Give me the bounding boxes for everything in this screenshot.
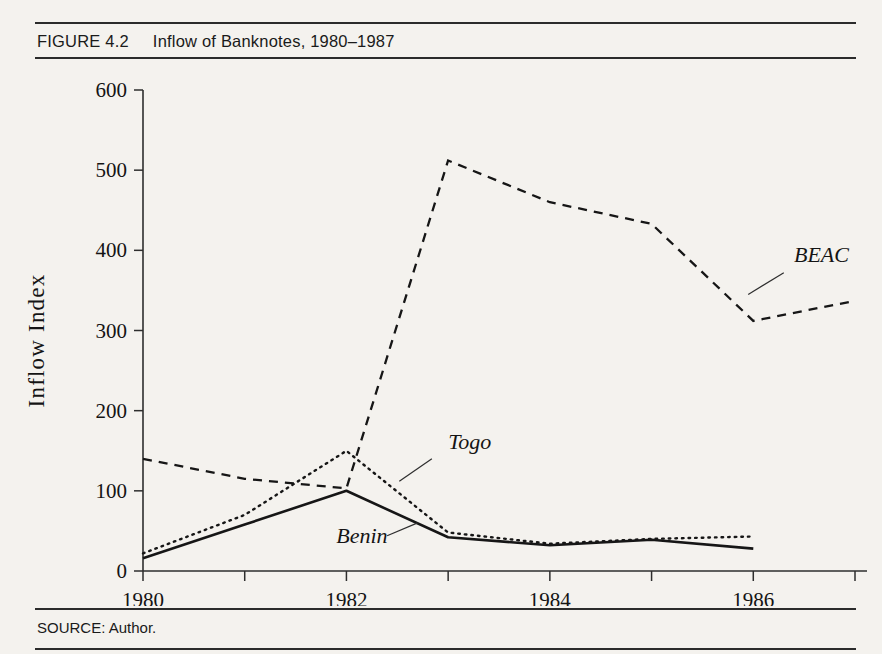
y-axis-group: 0100200300400500600 bbox=[96, 78, 144, 583]
y-tick-label: 100 bbox=[96, 479, 128, 503]
y-tick-label: 300 bbox=[96, 319, 128, 343]
x-tick-label: 1982 bbox=[325, 588, 367, 606]
y-tick-label: 400 bbox=[96, 238, 128, 262]
series-label-togo: Togo bbox=[448, 429, 491, 454]
series-line-beac bbox=[143, 161, 855, 489]
figure-page: FIGURE 4.2 Inflow of Banknotes, 1980–198… bbox=[0, 0, 882, 654]
leader-line-beac bbox=[748, 273, 784, 295]
y-tick-label: 0 bbox=[117, 559, 128, 583]
x-tick-label: 1980 bbox=[122, 588, 164, 606]
rule-above-source bbox=[35, 608, 856, 610]
y-tick-label: 500 bbox=[96, 158, 128, 182]
y-tick-label: 600 bbox=[96, 78, 128, 102]
series-label-benin: Benin bbox=[336, 523, 387, 548]
figure-title: Inflow of Banknotes, 1980–1987 bbox=[153, 32, 395, 51]
axis-lines bbox=[143, 90, 867, 571]
x-tick-label: 1986 bbox=[732, 588, 774, 606]
leader-line-benin bbox=[387, 523, 418, 536]
chart-area: 0100200300400500600 1980198219841986 BEA… bbox=[0, 58, 882, 606]
leader-line-togo bbox=[399, 459, 432, 481]
x-tick-label: 1984 bbox=[529, 588, 572, 606]
series-line-benin bbox=[143, 491, 753, 558]
source-note: SOURCE: Author. bbox=[37, 614, 156, 640]
y-axis-title: Inflow Index bbox=[24, 274, 49, 408]
figure-number: FIGURE 4.2 bbox=[37, 32, 129, 51]
line-chart-svg: 0100200300400500600 1980198219841986 BEA… bbox=[0, 58, 882, 606]
series-label-beac: BEAC bbox=[794, 242, 849, 267]
y-tick-label: 200 bbox=[96, 399, 128, 423]
annotation-layer: BEACTogoBenin bbox=[336, 242, 849, 548]
source-text: SOURCE: Author. bbox=[37, 619, 156, 636]
series-layer bbox=[143, 161, 855, 559]
rule-top bbox=[35, 22, 856, 24]
x-axis-group: 1980198219841986 bbox=[122, 571, 855, 606]
figure-caption: FIGURE 4.2 Inflow of Banknotes, 1980–198… bbox=[37, 27, 395, 55]
rule-bottom bbox=[35, 648, 856, 650]
